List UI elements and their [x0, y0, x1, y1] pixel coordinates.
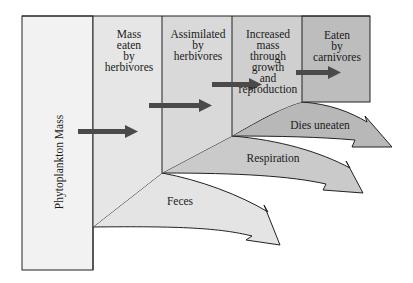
eaten-label: Mass eaten by herbivores — [97, 29, 161, 73]
carnivores-label: Eaten by carnivores — [304, 30, 370, 63]
respiration-label: Respiration — [238, 153, 308, 164]
feces-label: Feces — [160, 196, 200, 207]
phytoplankton-label: Phytoplankton Mass — [53, 107, 65, 217]
dies-uneaten-label: Dies uneaten — [285, 120, 355, 131]
growth-label: Increased mass through growth and reprod… — [233, 29, 303, 95]
assimilated-label: Assimilated by herbivores — [165, 29, 231, 62]
